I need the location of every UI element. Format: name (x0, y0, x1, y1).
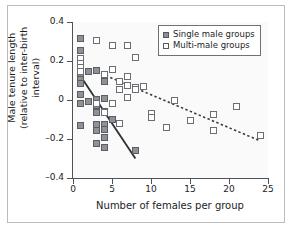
data-point-multi-male (124, 42, 131, 49)
data-point-multi-male (116, 86, 123, 93)
data-point-single-male (93, 140, 100, 147)
legend-item-multi-male[interactable]: Multi-male groups (163, 40, 255, 51)
data-point-multi-male (140, 83, 147, 90)
data-point-multi-male (124, 73, 131, 80)
data-point-multi-male (132, 54, 139, 61)
data-point-multi-male (210, 111, 217, 118)
data-point-single-male (93, 67, 100, 74)
data-point-multi-male (210, 127, 217, 134)
data-point-single-male (85, 98, 92, 105)
data-point-multi-male (124, 94, 131, 101)
data-point-multi-male (109, 66, 116, 73)
legend-label: Multi-male groups (173, 40, 250, 51)
data-point-multi-male (93, 100, 100, 107)
data-point-multi-male (101, 71, 108, 78)
open-square-icon (163, 43, 169, 49)
data-point-single-male (101, 95, 108, 102)
legend-item-single-male[interactable]: Single male groups (163, 29, 255, 40)
data-point-single-male (93, 109, 100, 116)
legend-label: Single male groups (173, 29, 255, 40)
data-point-single-male (77, 35, 84, 42)
data-point-multi-male (116, 78, 123, 85)
data-point-single-male (109, 116, 116, 123)
data-point-single-male (85, 68, 92, 75)
data-point-multi-male (124, 82, 131, 89)
data-point-single-male (77, 80, 84, 87)
filled-square-icon (163, 32, 169, 38)
data-point-multi-male (93, 37, 100, 44)
data-point-single-male (77, 47, 84, 54)
data-point-single-male (101, 144, 108, 151)
data-point-single-male (77, 100, 84, 107)
chart-figure: 0.40.20–0.2–0.4 0510152025 Male tenure l… (0, 0, 292, 230)
data-point-multi-male (132, 86, 139, 93)
data-point-single-male (132, 147, 139, 154)
data-point-multi-male (257, 132, 264, 139)
data-point-multi-male (77, 68, 84, 75)
data-point-multi-male (116, 120, 123, 127)
data-point-multi-male (148, 114, 155, 121)
data-point-multi-male (187, 117, 194, 124)
data-point-single-male (101, 78, 108, 85)
data-point-multi-male (109, 42, 116, 49)
data-point-multi-male (233, 103, 240, 110)
data-point-multi-male (163, 124, 170, 131)
data-point-single-male (101, 126, 108, 133)
data-point-multi-male (109, 100, 116, 107)
data-point-multi-male (101, 109, 108, 116)
data-point-multi-male (171, 97, 178, 104)
chart-legend: Single male groupsMulti-male groups (158, 25, 261, 56)
data-point-single-male (77, 122, 84, 129)
data-point-single-male (93, 127, 100, 134)
data-point-single-male (77, 91, 84, 98)
data-point-single-male (101, 134, 108, 141)
